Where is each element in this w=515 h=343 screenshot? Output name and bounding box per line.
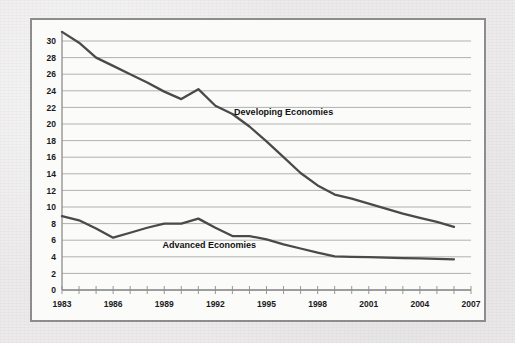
- series-label-advanced-economies: Advanced Economies: [163, 240, 257, 250]
- y-tick-label: 10: [47, 202, 57, 212]
- y-tick-label: 30: [47, 36, 57, 46]
- y-tick-label: 0: [51, 285, 56, 295]
- y-tick-label: 12: [47, 186, 57, 196]
- y-tick-label: 18: [47, 136, 57, 146]
- x-tick-label: 1983: [53, 299, 72, 309]
- series-label-developing-economies: Developing Economies: [234, 107, 333, 117]
- y-tick-label: 16: [47, 152, 57, 162]
- x-tick-label: 1989: [155, 299, 174, 309]
- chart-plot-area: 024681012141618202224262830 198319861989…: [32, 20, 484, 320]
- y-tick-label: 24: [47, 86, 57, 96]
- x-tick-label: 1995: [257, 299, 276, 309]
- y-tick-label: 4: [51, 252, 56, 262]
- x-tick-labels-group: 198319861989199219951998200120042007: [53, 299, 481, 309]
- y-tick-label: 28: [47, 53, 57, 63]
- x-tick-label: 1992: [206, 299, 225, 309]
- x-tick-label: 1986: [104, 299, 123, 309]
- y-tick-label: 22: [47, 103, 57, 113]
- line-chart: 024681012141618202224262830 198319861989…: [32, 20, 484, 320]
- y-tick-label: 8: [51, 219, 56, 229]
- x-tick-label: 2001: [359, 299, 378, 309]
- y-tick-label: 6: [51, 235, 56, 245]
- plot-background: [32, 20, 484, 320]
- y-tick-label: 14: [47, 169, 57, 179]
- y-tick-label: 26: [47, 69, 57, 79]
- chart-frame: 024681012141618202224262830 198319861989…: [30, 18, 486, 322]
- x-tick-label: 2004: [410, 299, 429, 309]
- y-tick-label: 2: [51, 269, 56, 279]
- x-tick-label: 2007: [462, 299, 481, 309]
- x-tick-label: 1998: [308, 299, 327, 309]
- y-tick-label: 20: [47, 119, 57, 129]
